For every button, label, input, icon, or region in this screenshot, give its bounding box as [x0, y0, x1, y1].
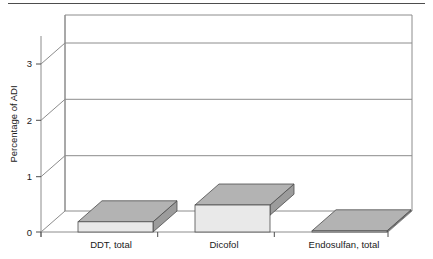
plot-back-wall [65, 15, 412, 211]
x-category-label-ddt-total: DDT, total [90, 239, 132, 250]
x-category-label-dicofol: Dicofol [209, 239, 238, 250]
y-tick-label-0: 0 [27, 227, 32, 238]
y-tick-label-1: 1 [27, 171, 32, 182]
y-tick-label-3: 3 [27, 58, 32, 69]
chart-canvas: 3 2 1 0 Percentage of ADI [0, 0, 433, 259]
chart-figure: 3 2 1 0 Percentage of ADI [0, 0, 433, 259]
bar-dicofol-front-face [195, 205, 270, 232]
x-category-label-endosulfan-total: Endosulfan, total [309, 239, 380, 250]
bar-ddt-total-front-face [78, 222, 153, 232]
y-axis-title: Percentage of ADI [8, 85, 19, 162]
bar-endosulfan-total-front-face [312, 231, 387, 232]
y-tick-label-2: 2 [27, 115, 32, 126]
